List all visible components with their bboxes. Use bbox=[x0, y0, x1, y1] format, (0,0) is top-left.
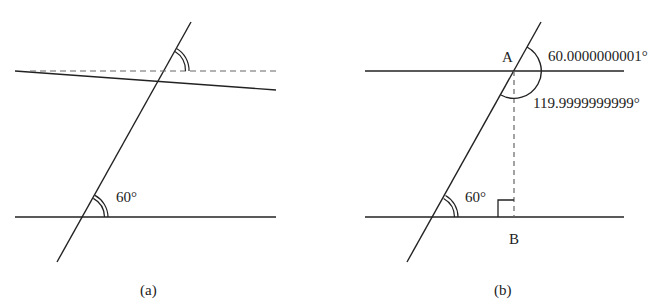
point-b-label: B bbox=[509, 231, 519, 247]
transversal-a bbox=[57, 22, 191, 262]
right-angle-marker bbox=[498, 200, 514, 217]
geometry-figure: 60° (a) A 60.0000000001° 119.9999999999°… bbox=[0, 0, 662, 307]
point-a-label: A bbox=[502, 49, 513, 65]
angle-bottom-right-label: 119.9999999999° bbox=[533, 95, 640, 111]
transversal-b bbox=[407, 22, 541, 262]
angle-bottom-label-b: 60° bbox=[465, 189, 486, 205]
angle-top-right-label: 60.0000000001° bbox=[548, 48, 648, 64]
angle-label-a: 60° bbox=[116, 189, 137, 205]
panel-a bbox=[15, 22, 276, 262]
slanted-line-a bbox=[15, 71, 276, 90]
caption-b: (b) bbox=[494, 282, 512, 299]
caption-a: (a) bbox=[140, 282, 157, 299]
